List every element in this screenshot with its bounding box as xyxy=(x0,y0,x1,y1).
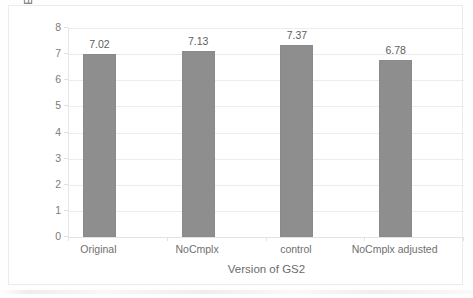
y-tick-label: 6 xyxy=(39,74,61,85)
y-tick-label: 5 xyxy=(39,100,61,111)
y-tick-mark xyxy=(64,105,68,106)
bar xyxy=(379,60,412,237)
bar-value-label: 7.13 xyxy=(168,36,228,47)
scanned-page: Execution time (sec.) 012345678 7.027.13… xyxy=(0,0,473,298)
y-tick-label: 7 xyxy=(39,48,61,59)
y-axis-title: Execution time (sec.) xyxy=(23,0,37,56)
x-tick-mark xyxy=(68,237,69,241)
y-tick-label: 4 xyxy=(39,127,61,138)
x-tick-mark xyxy=(364,237,365,241)
x-category-label: NoCmplx xyxy=(142,244,252,255)
y-tick-label: 8 xyxy=(39,22,61,33)
bar xyxy=(182,51,215,237)
x-category-label: NoCmplx adjusted xyxy=(340,244,450,255)
x-tick-mark xyxy=(463,237,464,241)
bar-value-label: 6.78 xyxy=(366,45,426,56)
y-tick-mark xyxy=(64,210,68,211)
x-category-label: Original xyxy=(43,244,153,255)
chart-frame: Execution time (sec.) 012345678 7.027.13… xyxy=(8,5,463,285)
x-tick-mark xyxy=(266,237,267,241)
bar xyxy=(280,45,313,238)
x-tick-mark xyxy=(167,237,168,241)
bar xyxy=(83,54,116,237)
scan-artifact xyxy=(0,290,473,294)
bar-value-label: 7.37 xyxy=(267,30,327,41)
y-tick-mark xyxy=(64,132,68,133)
plot-area: 7.027.137.376.78 xyxy=(69,28,464,237)
y-tick-label: 0 xyxy=(39,231,61,242)
y-tick-label: 2 xyxy=(39,179,61,190)
y-tick-mark xyxy=(64,184,68,185)
y-tick-mark xyxy=(64,79,68,80)
y-tick-mark xyxy=(64,158,68,159)
x-category-label: control xyxy=(241,244,351,255)
gridline xyxy=(69,237,464,238)
y-tick-label: 1 xyxy=(39,205,61,216)
y-tick-label: 3 xyxy=(39,153,61,164)
y-tick-mark xyxy=(64,53,68,54)
x-axis-title: Version of GS2 xyxy=(69,264,464,276)
y-tick-mark xyxy=(64,27,68,28)
bar-value-label: 7.02 xyxy=(69,39,129,50)
